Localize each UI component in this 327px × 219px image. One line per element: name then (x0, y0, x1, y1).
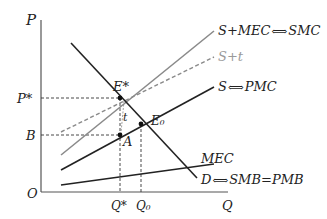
origin-label: O (27, 186, 38, 201)
e-star-label: E* (112, 79, 129, 94)
smc-curve (61, 31, 214, 155)
pmc-curve-label: S⟺PMC (218, 79, 277, 94)
demand-curve (71, 43, 197, 178)
demand-curve-label: D⟺SMB=PMB (200, 172, 304, 187)
b-label: B (25, 128, 36, 143)
mec-curve (61, 164, 214, 185)
externality-diagram: P Q O P* B Q* Q₀ E* E₀ A t S+MEC⟺SMC S+t… (0, 0, 327, 219)
y-axis-label: P (25, 11, 37, 29)
point-e-zero (139, 122, 144, 127)
point-e-star (118, 96, 123, 101)
t-label: t (123, 111, 128, 124)
smc-curve-label: S+MEC⟺SMC (218, 23, 321, 38)
mec-label: MEC (200, 151, 234, 166)
svg-text:S⟺PMC: S⟺PMC (218, 79, 277, 94)
e-zero-label: E₀ (150, 114, 165, 128)
equivalence-arrow-icon: ⟺ (272, 25, 288, 38)
svg-text:S+MEC⟺SMC: S+MEC⟺SMC (218, 23, 321, 38)
s-plus-t-label: S+t (218, 49, 244, 64)
q-zero-label: Q₀ (136, 199, 151, 213)
x-axis-label: Q (222, 198, 233, 213)
equivalence-arrow-icon: ⟺ (212, 174, 228, 187)
pmc-curve (61, 87, 214, 170)
p-star-label: P* (16, 91, 33, 106)
s-plus-t-curve (61, 57, 214, 132)
a-label: A (122, 134, 132, 149)
point-a (118, 133, 123, 138)
q-star-label: Q* (111, 199, 127, 213)
svg-text:D⟺SMB=PMB: D⟺SMB=PMB (200, 172, 304, 187)
equivalence-arrow-icon: ⟺ (228, 81, 244, 94)
